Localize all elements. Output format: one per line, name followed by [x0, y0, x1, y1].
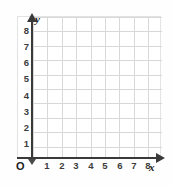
y-tick-label: 7: [17, 42, 29, 52]
origin-label: O: [16, 160, 25, 172]
y-tick-label: 1: [17, 139, 29, 149]
origin-tick-icon: [28, 159, 36, 165]
x-tick-label: 8: [142, 161, 154, 171]
x-tick-label: 2: [56, 161, 68, 171]
y-axis-variable-label: y: [35, 13, 40, 25]
grid-lines: [33, 17, 162, 159]
y-tick-label: 3: [17, 107, 29, 117]
x-tick-label: 5: [99, 161, 111, 171]
y-tick-label: 5: [17, 74, 29, 84]
x-tick-label: 7: [128, 161, 140, 171]
coordinate-grid-figure: y x O 8 7 6 5 4 3 2 1 1 2 3 4 5 6 7 8: [0, 0, 172, 186]
y-tick-label: 6: [17, 58, 29, 68]
x-tick-label: 1: [41, 161, 53, 171]
y-axis-line: [31, 20, 33, 159]
y-tick-label: 4: [17, 91, 29, 101]
y-tick-label: 8: [17, 26, 29, 36]
x-axis-line: [17, 157, 159, 159]
x-axis-arrow-icon: [156, 153, 165, 163]
x-tick-label: 4: [85, 161, 97, 171]
x-tick-label: 6: [114, 161, 126, 171]
x-tick-label: 3: [70, 161, 82, 171]
y-tick-label: 2: [17, 123, 29, 133]
plot-area: [17, 16, 161, 159]
